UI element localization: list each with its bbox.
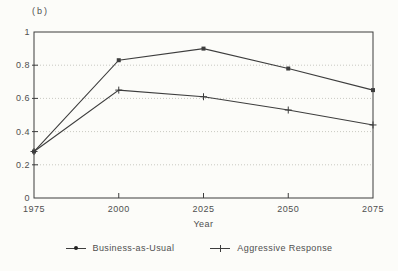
y-tick-label: 0.2 [16, 160, 30, 170]
x-tick-label: 2050 [277, 204, 299, 214]
legend-item-business-as-usual: Business-as-Usual [66, 243, 175, 253]
legend: Business-as-Usual Aggressive Response [0, 243, 398, 253]
square-marker [286, 67, 290, 71]
x-tick-label: 2075 [362, 204, 384, 214]
y-tick-label: 0.4 [16, 127, 30, 137]
legend-dot-marker-icon [66, 244, 86, 253]
square-marker [371, 88, 375, 92]
y-tick-label: 1 [24, 27, 30, 37]
square-marker [202, 47, 206, 51]
legend-plus-marker-icon [210, 244, 230, 253]
x-tick-label: 2025 [192, 204, 214, 214]
y-tick-label: 0.6 [16, 93, 30, 103]
x-axis-title: Year [193, 219, 213, 229]
square-marker [117, 58, 121, 62]
x-tick-label: 1975 [23, 204, 45, 214]
legend-item-aggressive-response: Aggressive Response [210, 243, 332, 253]
chart-svg: 00.20.40.60.8119752000202520502075Year [0, 0, 398, 238]
y-tick-label: 0 [24, 193, 30, 203]
x-tick-label: 2000 [108, 204, 130, 214]
y-tick-label: 0.8 [16, 60, 30, 70]
legend-label-business-as-usual: Business-as-Usual [93, 243, 175, 253]
figure: (b) 00.20.40.60.8119752000202520502075Ye… [0, 0, 398, 271]
legend-label-aggressive-response: Aggressive Response [237, 243, 332, 253]
